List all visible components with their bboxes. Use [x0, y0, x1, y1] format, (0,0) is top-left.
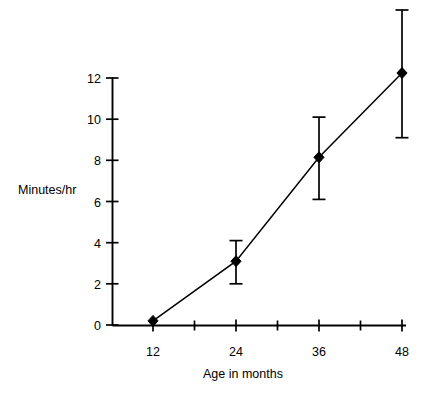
y-axis-tick-labels: 12 10 8 6 4 2 0 [87, 72, 101, 333]
x-tick-label-48: 48 [395, 345, 409, 359]
y-tick-label-8: 8 [94, 154, 101, 168]
chart-plot-area: 12 10 8 6 4 2 0 12 24 36 48 [0, 0, 427, 402]
y-tick-label-6: 6 [94, 196, 101, 210]
y-tick-label-12: 12 [87, 72, 101, 86]
x-axis-tick-labels: 12 24 36 48 [146, 345, 409, 359]
chart-figure: 12 10 8 6 4 2 0 12 24 36 48 [0, 0, 427, 402]
y-axis-title: Minutes/hr [18, 183, 76, 197]
x-tick-label-12: 12 [146, 345, 160, 359]
error-bars [230, 10, 409, 284]
y-tick-label-0: 0 [94, 319, 101, 333]
x-axis-title: Age in months [203, 367, 283, 381]
series-line-minutes-per-hr [153, 73, 402, 321]
x-tick-label-36: 36 [312, 345, 326, 359]
y-tick-label-4: 4 [94, 237, 101, 251]
y-tick-label-2: 2 [94, 278, 101, 292]
x-tick-label-24: 24 [229, 345, 243, 359]
y-tick-label-10: 10 [87, 113, 101, 127]
